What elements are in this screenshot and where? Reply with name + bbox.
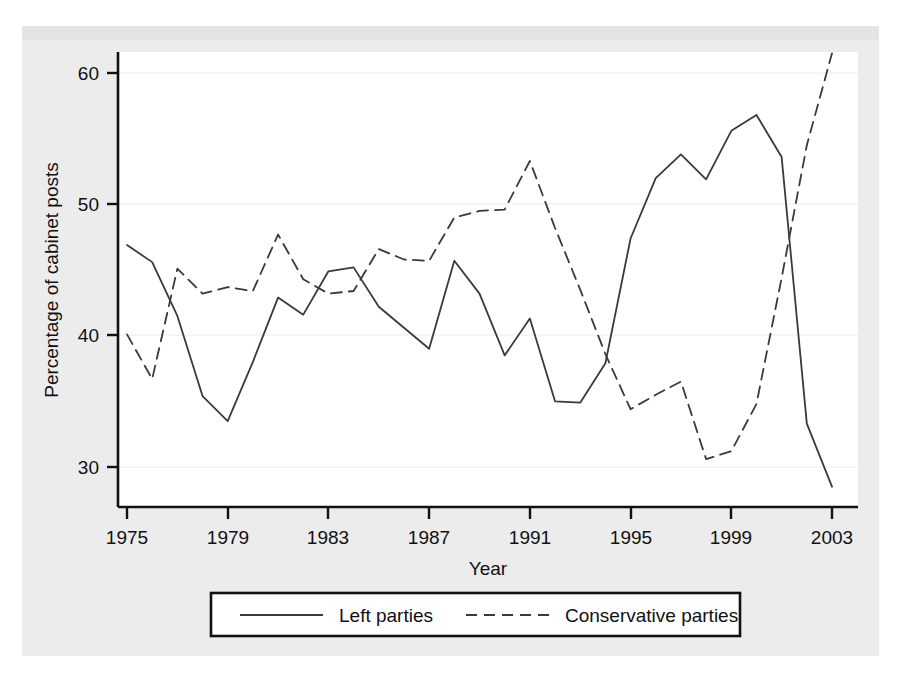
x-tick-label-1991: 1991 [509, 527, 551, 548]
y-tick-label-40: 40 [78, 325, 99, 346]
x-tick-label-2003: 2003 [811, 527, 853, 548]
line-chart-figure: 60 50 40 30 1975 1979 1983 1987 1991 199… [0, 0, 901, 681]
y-tick-label-30: 30 [78, 457, 99, 478]
x-tick-label-1999: 1999 [710, 527, 752, 548]
legend-label-left-parties: Left parties [339, 605, 433, 626]
y-tick-label-50: 50 [78, 194, 99, 215]
x-tick-label-1987: 1987 [408, 527, 450, 548]
x-tick-label-1995: 1995 [610, 527, 652, 548]
legend: Left parties Conservative parties [211, 593, 740, 636]
figure-page: 60 50 40 30 1975 1979 1983 1987 1991 199… [0, 0, 901, 681]
legend-label-conservative-parties: Conservative parties [565, 605, 738, 626]
y-axis-ticks [107, 73, 118, 467]
chart-canvas: 60 50 40 30 1975 1979 1983 1987 1991 199… [0, 0, 901, 681]
x-tick-label-1975: 1975 [106, 527, 148, 548]
y-tick-label-60: 60 [78, 63, 99, 84]
x-tick-label-1983: 1983 [307, 527, 349, 548]
x-axis-title: Year [469, 558, 508, 579]
y-axis-title: Percentage of cabinet posts [41, 162, 62, 398]
x-axis-ticks [127, 507, 832, 519]
x-tick-label-1979: 1979 [207, 527, 249, 548]
